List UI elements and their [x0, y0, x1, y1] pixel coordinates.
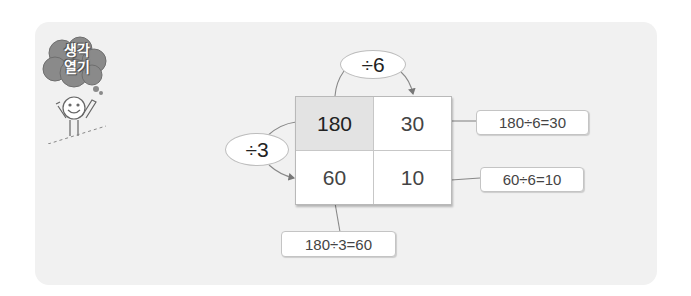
grid-cell-top-left: 180	[296, 97, 373, 150]
callout-row1-equation: 180÷6=30	[476, 110, 589, 135]
grid-divider-horizontal	[296, 150, 451, 151]
grid-cell-bottom-left: 60	[296, 151, 373, 204]
callout-col1-equation: 180÷3=60	[281, 231, 396, 257]
number-grid: 180 30 60 10	[295, 96, 452, 205]
grid-cell-bottom-right: 10	[374, 151, 451, 204]
callout-row2-equation: 60÷6=10	[480, 167, 584, 192]
grid-cell-top-right: 30	[374, 97, 451, 150]
operator-bubble-divide-6: ÷6	[340, 50, 406, 79]
operator-bubble-divide-3: ÷3	[225, 133, 289, 166]
